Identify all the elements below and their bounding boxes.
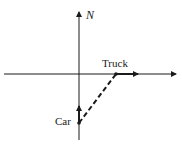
- vector-diagram: N Truck Car: [0, 0, 182, 146]
- truck-label: Truck: [102, 58, 128, 69]
- truck-position-dot: [114, 72, 118, 76]
- relative-position-line: [79, 74, 116, 123]
- north-label: N: [86, 9, 94, 21]
- car-label: Car: [55, 116, 71, 127]
- car-position-dot: [77, 121, 81, 125]
